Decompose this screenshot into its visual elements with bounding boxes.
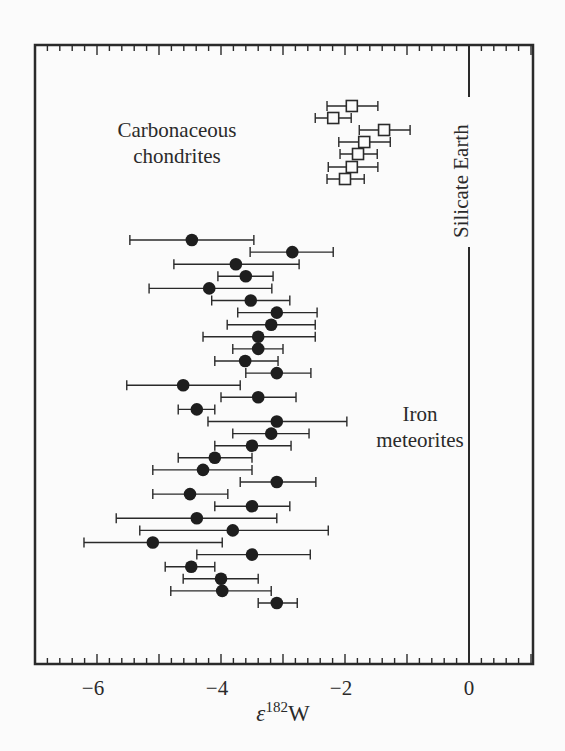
data-point-chondrite — [339, 137, 390, 148]
x-tick-label: −2 — [321, 676, 361, 701]
data-point-chondrite — [327, 174, 364, 185]
data-point-iron-meteorite — [127, 379, 240, 392]
x-tick-label: −6 — [73, 676, 113, 701]
data-point-iron-meteorite — [221, 391, 296, 404]
data-point-iron-meteorite — [165, 560, 215, 573]
data-point-iron-meteorite — [238, 306, 317, 319]
data-point-chondrite — [315, 113, 351, 124]
data-point-iron-meteorite — [215, 500, 290, 513]
data-point-iron-meteorite — [178, 403, 215, 416]
isotope-mass: 182 — [265, 699, 288, 715]
annotation-line: Iron — [360, 404, 480, 425]
data-point-iron-meteorite — [171, 585, 271, 598]
data-point-iron-meteorite — [227, 318, 315, 331]
data-point-iron-meteorite — [84, 536, 222, 549]
x-tick-label: 0 — [449, 676, 489, 701]
data-point-iron-meteorite — [140, 524, 328, 537]
data-point-iron-meteorite — [183, 573, 258, 586]
data-point-iron-meteorite — [218, 270, 273, 283]
data-point-iron-meteorite — [203, 331, 315, 344]
data-point-iron-meteorite — [116, 512, 277, 525]
annotation-line: chondrites — [100, 146, 254, 167]
annotation-iron-meteorites: Iron meteorites — [360, 404, 480, 456]
data-point-iron-meteorite — [197, 548, 310, 561]
data-point-iron-meteorite — [246, 367, 311, 380]
data-point-iron-meteorite — [130, 234, 254, 247]
element-symbol: W — [288, 701, 310, 726]
data-point-iron-meteorite — [208, 415, 347, 428]
data-point-iron-meteorite — [174, 258, 299, 271]
series-iron-meteorites — [84, 234, 347, 610]
data-point-iron-meteorite — [258, 597, 297, 610]
data-point-iron-meteorite — [153, 464, 252, 477]
data-point-chondrite — [359, 125, 410, 136]
scatter-plot — [0, 0, 565, 751]
data-point-iron-meteorite — [178, 452, 252, 465]
data-point-iron-meteorite — [212, 294, 290, 307]
silicate-earth-label: Silicate Earth — [451, 124, 472, 238]
data-point-iron-meteorite — [250, 246, 333, 259]
data-point-iron-meteorite — [233, 343, 283, 356]
data-point-iron-meteorite — [215, 439, 291, 452]
data-point-iron-meteorite — [153, 488, 228, 501]
data-point-iron-meteorite — [149, 282, 272, 295]
annotation-line: Carbonaceous — [100, 120, 254, 141]
annotation-line: meteorites — [360, 430, 480, 451]
x-tick-label: −4 — [197, 676, 237, 701]
data-point-iron-meteorite — [233, 427, 309, 440]
data-point-chondrite — [328, 162, 378, 173]
annotation-carbonaceous-chondrites: Carbonaceous chondrites — [100, 120, 254, 172]
data-point-iron-meteorite — [215, 355, 278, 368]
series-carbonaceous-chondrites — [315, 101, 410, 185]
data-point-chondrite — [327, 101, 378, 112]
x-axis-label: ε182W — [233, 700, 333, 725]
data-point-chondrite — [340, 149, 377, 160]
data-point-iron-meteorite — [240, 476, 316, 489]
